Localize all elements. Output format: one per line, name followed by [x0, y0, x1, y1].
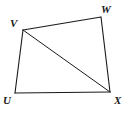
vertex-label-w: W: [101, 4, 111, 15]
quadrilateral-svg: [0, 0, 128, 115]
edge-uv: [15, 30, 23, 93]
vertex-label-x: X: [114, 95, 121, 106]
geometry-figure: V W X U: [0, 0, 128, 115]
edge-wx: [101, 17, 110, 92]
diagonal-vx: [23, 30, 110, 92]
edge-xu: [15, 92, 110, 93]
vertex-label-v: V: [10, 18, 17, 29]
edge-vw: [23, 17, 101, 30]
vertex-label-u: U: [3, 95, 11, 106]
